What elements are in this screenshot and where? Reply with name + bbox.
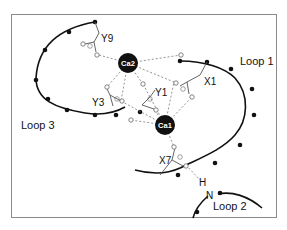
loop1-backbone [135,61,246,173]
ion-ca2: Ca2 [118,53,138,73]
residue-y9: Y9 [101,34,113,44]
ion-ca2-label: Ca2 [121,59,135,68]
atom-hydrogen: H [199,178,206,188]
backbone-and-bonds [0,0,287,230]
residue-y1: Y1 [155,88,167,98]
loop2-label: Loop 2 [213,201,247,212]
residue-x7: X7 [159,156,171,166]
residue-y3: Y3 [92,98,104,108]
residue-x1: X1 [204,77,216,87]
loop3-label: Loop 3 [21,120,55,131]
atom-nitrogen: N [206,191,213,201]
ion-ca1-label: Ca1 [158,121,172,130]
ion-ca1: Ca1 [155,115,175,135]
loop1-label: Loop 1 [240,56,274,67]
